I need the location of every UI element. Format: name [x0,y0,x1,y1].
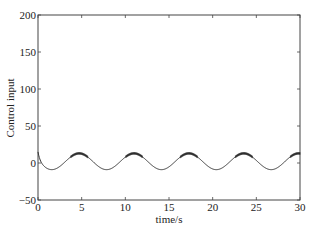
y-axis-label: Control input [4,79,16,138]
x-axis-ticks: 051015202530 [35,15,306,213]
x-tick-label: 0 [35,201,41,213]
x-tick-label: 20 [207,201,219,213]
plot-area [38,15,300,200]
y-tick-label: 50 [25,120,37,132]
y-tick-label: 150 [20,46,37,58]
y-tick-label: −50 [19,194,37,206]
line-chart: 051015202530 −50050100150200 time/s Cont… [0,0,311,230]
x-axis-label: time/s [156,213,183,225]
x-tick-label: 10 [120,201,132,213]
x-tick-label: 30 [295,201,307,213]
x-tick-label: 5 [79,201,85,213]
y-axis-ticks: −50050100150200 [19,9,300,206]
plot-frame [38,15,300,200]
x-tick-label: 25 [251,201,263,213]
y-tick-label: 0 [31,157,37,169]
y-tick-label: 200 [20,9,37,21]
x-tick-label: 15 [164,201,176,213]
chatter-detail [71,152,300,158]
y-tick-label: 100 [20,83,37,95]
